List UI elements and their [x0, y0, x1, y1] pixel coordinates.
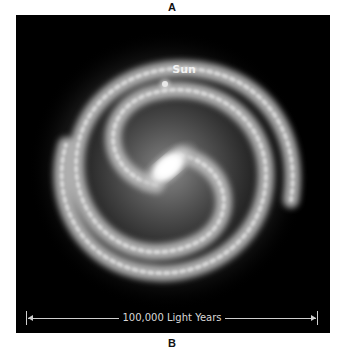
label-b: B [0, 337, 344, 349]
milky-way-image: Sun 100,000 Light Years [16, 15, 330, 333]
label-a: A [0, 1, 344, 13]
scale-bar: 100,000 Light Years [26, 311, 318, 325]
sun-marker-icon [162, 81, 168, 87]
sun-label: Sun [154, 63, 214, 76]
scale-bar-label: 100,000 Light Years [119, 312, 224, 323]
